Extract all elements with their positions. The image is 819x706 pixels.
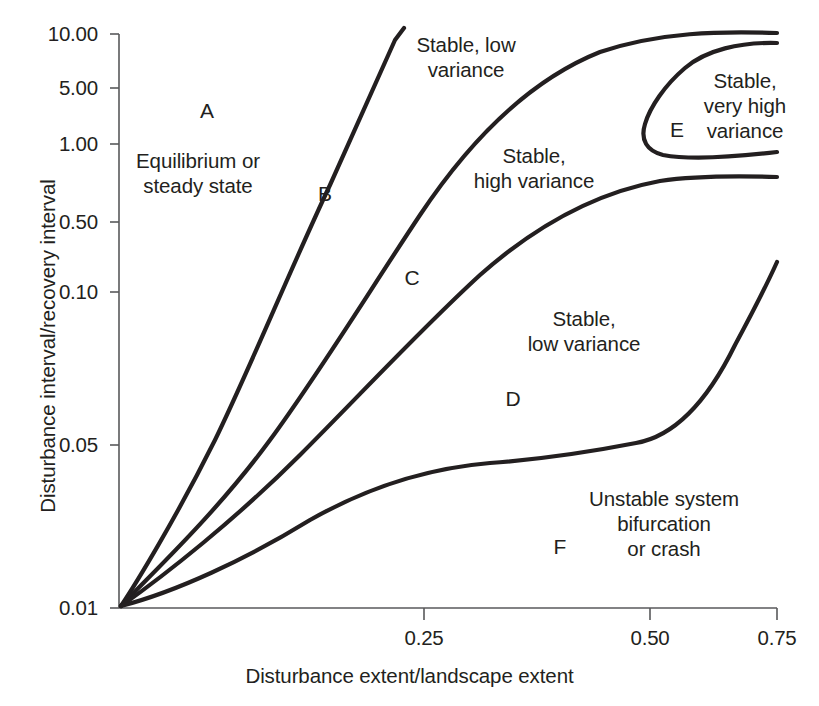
region-caption-stable-very-high-variance: Stable,very highvariance xyxy=(704,68,786,143)
region-caption-equilibrium: Equilibrium orsteady state xyxy=(136,148,260,198)
region-caption-stable-low-variance-top: Stable, lowvariance xyxy=(416,32,515,82)
y-tick-label-10: 10.00 xyxy=(10,22,98,46)
region-letter-e: E xyxy=(670,118,684,142)
region-letter-d: D xyxy=(505,387,520,411)
region-caption-unstable-system: Unstable systembifurcationor crash xyxy=(589,486,739,561)
y-axis-ticks xyxy=(110,34,119,608)
x-axis-ticks xyxy=(424,608,777,620)
x-tick-label-0-75: 0.75 xyxy=(757,626,796,650)
curve-boundary-A-B xyxy=(121,28,404,606)
x-tick-label-0-50: 0.50 xyxy=(630,626,669,650)
x-tick-label-0-25: 0.25 xyxy=(404,626,443,650)
region-letter-c: C xyxy=(404,266,419,290)
region-caption-stable-high-variance: Stable,high variance xyxy=(474,143,595,193)
x-axis-title: Disturbance extent/landscape extent xyxy=(0,664,819,688)
region-letter-b: B xyxy=(318,182,332,206)
figure-root: 10.00 5.00 1.00 0.50 0.10 0.05 0.01 0.25… xyxy=(0,0,819,706)
region-letter-f: F xyxy=(554,535,567,559)
y-axis-title: Disturbance interval/recovery interval xyxy=(36,66,60,626)
region-letter-a: A xyxy=(200,99,214,123)
plot-canvas xyxy=(0,0,819,706)
region-caption-stable-low-variance: Stable,low variance xyxy=(528,306,641,356)
